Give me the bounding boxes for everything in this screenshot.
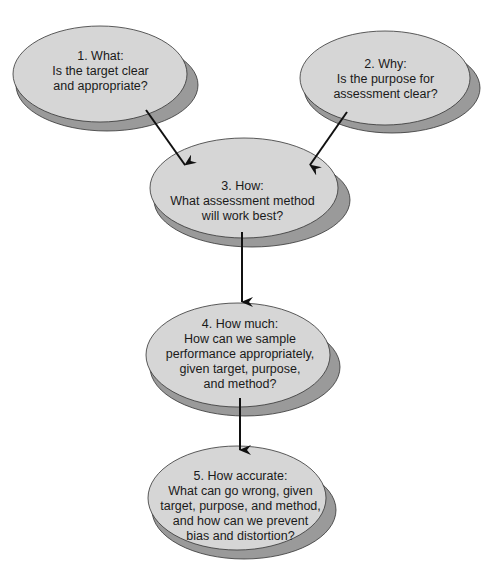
node-how-much-line: performance appropriately, xyxy=(160,347,320,362)
node-why-label: 2. Why: Is the purpose for assessment cl… xyxy=(318,57,453,102)
node-what-line: Is the target clear xyxy=(33,64,168,79)
node-how-label: 3. How: What assessment method will work… xyxy=(165,179,320,224)
node-why-title: 2. Why: xyxy=(318,57,453,72)
node-how-accurate-label: 5. How accurate: What can go wrong, give… xyxy=(158,469,323,544)
node-how-much-line: given target, purpose, xyxy=(160,362,320,377)
node-how-much-line: and method? xyxy=(160,377,320,392)
node-how-accurate-line: and how can we prevent xyxy=(158,514,323,529)
node-why-line: Is the purpose for xyxy=(318,72,453,87)
arrow-why-to-how xyxy=(310,112,347,165)
node-how-much-label: 4. How much: How can we sample performan… xyxy=(160,317,320,392)
node-how-accurate-line: bias and distortion? xyxy=(158,529,323,544)
node-how-accurate-title: 5. How accurate: xyxy=(158,469,323,484)
node-what-label: 1. What: Is the target clear and appropr… xyxy=(33,49,168,94)
node-how-line: What assessment method xyxy=(165,194,320,209)
node-how-accurate-line: What can go wrong, given xyxy=(158,484,323,499)
node-how-title: 3. How: xyxy=(165,179,320,194)
node-how-line: will work best? xyxy=(165,209,320,224)
node-what-line: and appropriate? xyxy=(33,79,168,94)
node-how-much-line: How can we sample xyxy=(160,332,320,347)
node-why-line: assessment clear? xyxy=(318,87,453,102)
node-how-accurate-line: target, purpose, and method, xyxy=(158,499,323,514)
node-how-much-title: 4. How much: xyxy=(160,317,320,332)
node-what-title: 1. What: xyxy=(33,49,168,64)
